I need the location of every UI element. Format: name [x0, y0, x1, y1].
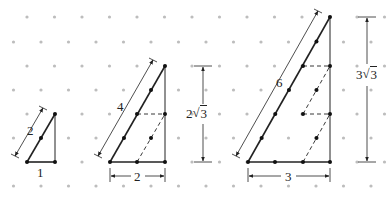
grid-dot: [232, 88, 235, 91]
medium-hypotenuse-label: 4: [117, 100, 124, 113]
grid-dot: [94, 88, 97, 91]
triangle-medium: [94, 58, 212, 182]
grid-dot: [12, 88, 15, 91]
grid-dot: [94, 136, 97, 139]
grid-dot: [108, 15, 111, 18]
grid-dot: [383, 160, 386, 163]
grid-dot: [122, 88, 125, 91]
grid-dot: [67, 184, 70, 187]
grid-dot: [245, 64, 248, 67]
grid-dot: [204, 40, 207, 43]
grid-dot: [218, 112, 221, 115]
grid-dot: [39, 184, 42, 187]
grid-dot: [287, 136, 290, 139]
grid-dot: [259, 40, 262, 43]
grid-dot: [287, 40, 290, 43]
grid-dot: [135, 15, 138, 18]
large-hypotenuse-label: 6: [276, 76, 283, 89]
grid-dot: [300, 15, 303, 18]
grid-dot: [12, 136, 15, 139]
grid-dot: [383, 15, 386, 18]
grid-dot: [273, 15, 276, 18]
grid-dot: [25, 112, 28, 115]
grid-dot: [177, 184, 180, 187]
medium-base-label: 2: [134, 170, 141, 183]
grid-dot: [369, 136, 372, 139]
grid-dot: [149, 40, 152, 43]
medium-total-height-label: 2√3: [186, 107, 207, 120]
grid-dot: [204, 184, 207, 187]
grid-dot: [80, 15, 83, 18]
grid-dot: [177, 88, 180, 91]
grid-dot: [190, 160, 193, 163]
grid-dot: [80, 160, 83, 163]
grid-dot: [245, 112, 248, 115]
grid-dot: [218, 160, 221, 163]
small-hyp-tick: [11, 154, 19, 158]
large-base-label: 3: [285, 170, 292, 183]
grid-dot: [287, 184, 290, 187]
grid-dot: [259, 184, 262, 187]
triangle-large: [232, 9, 376, 182]
grid-dot: [39, 40, 42, 43]
grid-dot: [355, 112, 358, 115]
grid-dot: [94, 184, 97, 187]
small-hypotenuse-label: 2: [27, 124, 34, 137]
grid-dot: [383, 112, 386, 115]
grid-dot: [369, 88, 372, 91]
grid-dot: [383, 64, 386, 67]
grid-dot: [39, 88, 42, 91]
grid-dot: [342, 88, 345, 91]
grid-dot: [122, 40, 125, 43]
grid-dot: [245, 15, 248, 18]
grid-dot: [25, 15, 28, 18]
grid-dot: [232, 40, 235, 43]
grid-dot: [342, 40, 345, 43]
large-total-height-label: 3√3: [356, 68, 377, 81]
grid-dot: [122, 184, 125, 187]
grid-dot: [149, 184, 152, 187]
grid-dot: [190, 64, 193, 67]
grid-dot: [94, 40, 97, 43]
grid-dot: [108, 112, 111, 115]
grid-dot: [135, 64, 138, 67]
grid-dot: [218, 64, 221, 67]
grid-dot: [67, 136, 70, 139]
similar-triangles-diagram: 2 1 √3 4 2 √3 √3 2√3 6 3 √3 √3 √3 3√3: [0, 0, 392, 199]
small-hyp-tick: [39, 106, 47, 110]
grid-dot: [53, 15, 56, 18]
grid-dot: [108, 64, 111, 67]
grid-dot: [12, 184, 15, 187]
grid-dot: [190, 15, 193, 18]
grid-dot: [232, 136, 235, 139]
grid-dot: [67, 40, 70, 43]
grid-dot: [232, 184, 235, 187]
grid-dot: [12, 40, 15, 43]
grid-dot: [53, 64, 56, 67]
grid-dot: [204, 88, 207, 91]
grid-dot: [204, 136, 207, 139]
grid-dot: [177, 40, 180, 43]
grid-dot: [259, 88, 262, 91]
small-base-label: 1: [37, 166, 44, 179]
grid-dot: [369, 184, 372, 187]
grid-dot: [273, 64, 276, 67]
grid-dot: [218, 15, 221, 18]
grid-dot: [67, 88, 70, 91]
grid-dot: [80, 112, 83, 115]
grid-dot: [342, 184, 345, 187]
medium-hyp-dimension: [98, 60, 153, 156]
grid-dot: [177, 136, 180, 139]
grid-dot: [342, 136, 345, 139]
grid-dot: [314, 184, 317, 187]
grid-dot: [369, 40, 372, 43]
grid-dot: [163, 15, 166, 18]
grid-dot: [80, 64, 83, 67]
grid-dot: [25, 64, 28, 67]
